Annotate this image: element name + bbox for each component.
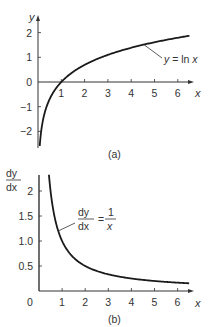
chart-a-y-arrow-icon [36,15,40,21]
x-tick-label: 4 [128,87,134,99]
chart-a-annotation-leader [144,45,162,58]
x-tick-label: 3 [105,296,111,308]
x-tick-label: 2 [82,296,88,308]
chart-b-origin-label: 0 [27,296,33,308]
svg-text:=: = [98,213,104,225]
chart-a-x-label: x [194,87,201,99]
y-tick-label: −1 [20,101,32,113]
x-tick-label: 5 [152,87,158,99]
y-tick-label: 2 [26,27,32,39]
chart-a-ln-x: 123456 210−1−2 x y y = ln x (a) [20,11,201,160]
svg-text:1: 1 [108,206,114,218]
x-tick-label: 6 [175,296,181,308]
figure: 123456 210−1−2 x y y = ln x (a) 123456 2… [0,0,209,327]
chart-b-x-arrow-icon [188,289,194,293]
chart-a-annotation: y = ln x [163,53,198,65]
svg-text:dx: dx [78,220,90,232]
x-tick-label: 2 [82,87,88,99]
y-tick-label: −2 [20,125,32,137]
y-tick-label: 1.0 [18,235,33,247]
chart-b-curve [49,175,189,284]
chart-b-x-label: x [194,297,201,309]
x-tick-label: 1 [58,87,64,99]
chart-b-y-label: dy dx [6,167,21,193]
chart-b-derivative: 123456 21.51.00.5 0 x dy dx dy dx = 1 x … [6,167,201,325]
x-tick-label: 5 [152,296,158,308]
chart-b-annotation: dy dx = 1 x [78,206,116,232]
y-tick-label: 0.5 [18,260,33,272]
chart-b-annotation-leader [58,223,75,231]
chart-a-caption: (a) [108,148,121,160]
figure-svg: 123456 210−1−2 x y y = ln x (a) 123456 2… [0,0,209,327]
svg-text:dy: dy [6,167,18,179]
x-tick-label: 1 [59,296,65,308]
svg-text:dx: dx [6,181,18,193]
x-tick-label: 3 [105,87,111,99]
chart-a-y-label: y [28,11,36,23]
svg-text:x: x [106,220,113,232]
chart-b-caption: (b) [108,313,121,325]
y-tick-label: 1 [26,51,32,63]
chart-a-x-arrow-icon [188,80,194,84]
svg-text:dy: dy [78,206,90,218]
y-tick-label: 1.5 [18,210,33,222]
x-tick-label: 6 [175,87,181,99]
y-tick-label: 0 [26,76,32,88]
x-tick-label: 4 [128,296,134,308]
y-tick-label: 2 [27,185,33,197]
